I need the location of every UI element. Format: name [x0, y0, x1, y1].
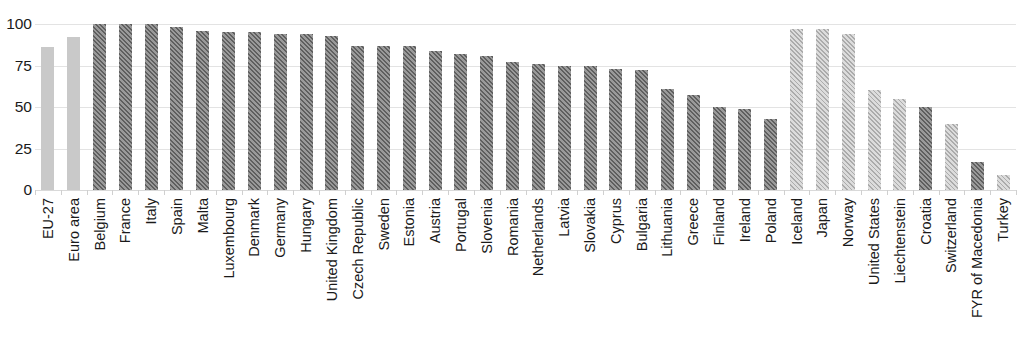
- x-label-slot: Hungary: [294, 196, 319, 339]
- x-label-euro-area: Euro area: [66, 198, 81, 262]
- x-label-japan: Japan: [815, 198, 830, 238]
- bar-bulgaria: [635, 70, 648, 190]
- x-label-switzerland: Switzerland: [944, 198, 959, 273]
- x-label-slot: Slovakia: [578, 196, 603, 339]
- tickmark: [732, 190, 733, 195]
- x-label-slot: Malta: [190, 196, 215, 339]
- bar-italy: [145, 24, 158, 190]
- x-label-slot: Denmark: [242, 196, 267, 339]
- x-label-greece: Greece: [686, 198, 701, 246]
- bar-ireland: [738, 109, 751, 190]
- x-label-czech-republic: Czech Republic: [350, 198, 365, 300]
- bar-eu-27: [41, 47, 54, 190]
- x-label-slovenia: Slovenia: [480, 198, 495, 254]
- x-label-turkey: Turkey: [996, 198, 1011, 242]
- bar-france: [119, 24, 132, 190]
- x-label-fyr-of-macedonia: FYR of Macedonia: [970, 198, 985, 318]
- x-label-italy: Italy: [144, 198, 159, 225]
- x-label-slot: Lithuania: [655, 196, 680, 339]
- x-label-slot: United States: [862, 196, 887, 339]
- bar-portugal: [454, 54, 467, 190]
- x-label-denmark: Denmark: [247, 198, 262, 257]
- bar-croatia: [919, 107, 932, 190]
- x-label-france: France: [118, 198, 133, 243]
- x-label-slot: Spain: [164, 196, 189, 339]
- x-label-poland: Poland: [764, 198, 779, 243]
- bar-sweden: [377, 46, 390, 190]
- x-label-slot: FYR of Macedonia: [965, 196, 990, 339]
- y-tick-label-100: 100: [2, 16, 32, 32]
- tickmark: [164, 190, 165, 195]
- x-label-hungary: Hungary: [299, 198, 314, 253]
- y-axis: 0255075100: [0, 0, 32, 339]
- x-label-slot: Bulgaria: [629, 196, 654, 339]
- tickmark: [758, 190, 759, 195]
- tickmark: [87, 190, 88, 195]
- tickmark: [190, 190, 191, 195]
- x-label-slot: Czech Republic: [345, 196, 370, 339]
- x-label-slot: Greece: [681, 196, 706, 339]
- x-label-latvia: Latvia: [557, 198, 572, 237]
- tickmark: [242, 190, 243, 195]
- tickmark: [422, 190, 423, 195]
- bar-slovenia: [480, 56, 493, 190]
- bar-united-states: [868, 90, 881, 190]
- x-label-croatia: Croatia: [918, 198, 933, 245]
- bar-austria: [429, 51, 442, 190]
- tickmark: [138, 190, 139, 195]
- x-label-slot: Turkey: [991, 196, 1016, 339]
- bar-liechtenstein: [893, 99, 906, 190]
- tickmark: [61, 190, 62, 195]
- tickmark: [293, 190, 294, 195]
- x-label-united-kingdom: United Kingdom: [325, 198, 340, 301]
- tickmark: [784, 190, 785, 195]
- bar-malta: [196, 31, 209, 190]
- y-tick-label-75: 75: [2, 58, 32, 74]
- tickmark: [861, 190, 862, 195]
- x-label-bulgaria: Bulgaria: [634, 198, 649, 251]
- tickmark: [887, 190, 888, 195]
- bar-turkey: [997, 175, 1010, 190]
- x-label-slot: Slovenia: [474, 196, 499, 339]
- x-label-slot: Poland: [758, 196, 783, 339]
- x-label-slot: Italy: [139, 196, 164, 339]
- tickmark: [655, 190, 656, 195]
- tickmark: [112, 190, 113, 195]
- x-label-slot: Finland: [707, 196, 732, 339]
- y-tick-label-0: 0: [2, 182, 32, 198]
- tickmark: [474, 190, 475, 195]
- x-label-portugal: Portugal: [454, 198, 469, 252]
- bar-iceland: [790, 29, 803, 190]
- x-axis-labels: EU-27Euro areaBelgiumFranceItalySpainMal…: [35, 196, 1016, 339]
- tickmark: [526, 190, 527, 195]
- tickmark: [319, 190, 320, 195]
- bar-fyr-of-macedonia: [971, 162, 984, 190]
- y-tick-label-50: 50: [2, 99, 32, 115]
- x-label-austria: Austria: [428, 198, 443, 243]
- tickmark: [551, 190, 552, 195]
- bar-greece: [687, 95, 700, 190]
- bar-united-kingdom: [325, 36, 338, 190]
- x-label-united-states: United States: [867, 198, 882, 285]
- x-label-iceland: Iceland: [789, 198, 804, 245]
- tickmark: [913, 190, 914, 195]
- bar-netherlands: [532, 64, 545, 190]
- tickmark: [577, 190, 578, 195]
- tickmark: [603, 190, 604, 195]
- tickmark: [809, 190, 810, 195]
- x-label-slot: Ireland: [732, 196, 757, 339]
- x-label-netherlands: Netherlands: [531, 198, 546, 276]
- x-label-estonia: Estonia: [402, 198, 417, 246]
- bar-slovakia: [584, 66, 597, 191]
- tickmark: [500, 190, 501, 195]
- x-label-norway: Norway: [841, 198, 856, 247]
- x-label-germany: Germany: [273, 198, 288, 258]
- x-label-slot: Croatia: [913, 196, 938, 339]
- tickmark: [448, 190, 449, 195]
- tickmark: [396, 190, 397, 195]
- bar-romania: [506, 62, 519, 190]
- x-label-slot: United Kingdom: [319, 196, 344, 339]
- x-label-ireland: Ireland: [738, 198, 753, 242]
- x-label-malta: Malta: [196, 198, 211, 233]
- x-label-slot: Estonia: [397, 196, 422, 339]
